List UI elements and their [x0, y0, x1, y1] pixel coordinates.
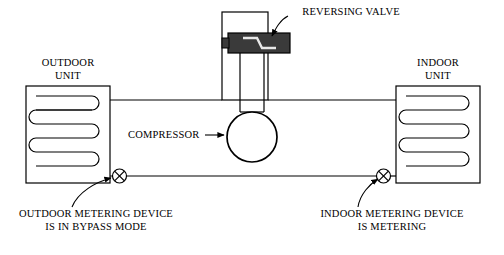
compressor-label: COMPRESSOR: [128, 129, 212, 142]
reversing-valve-solenoid: [222, 38, 229, 48]
outdoor-metering-device: [113, 169, 127, 183]
reversing-valve-label: REVERSING VALVE: [286, 6, 416, 19]
heat-pump-diagram: REVERSING VALVE OUTDOOR UNIT INDOOR UNIT…: [0, 0, 504, 255]
indoor-metering-device: [377, 169, 391, 183]
outdoor-unit-label: OUTDOOR UNIT: [22, 57, 114, 82]
indoor-unit-label: INDOOR UNIT: [394, 57, 482, 82]
indoor-metering-leader: [358, 179, 378, 207]
compressor-circle: [227, 112, 277, 162]
reversing-valve-riser: [222, 12, 268, 100]
indoor-metering-caption: INDOOR METERING DEVICE IS METERING: [304, 208, 480, 233]
outdoor-metering-caption: OUTDOOR METERING DEVICE IS IN BYPASS MOD…: [8, 208, 184, 233]
